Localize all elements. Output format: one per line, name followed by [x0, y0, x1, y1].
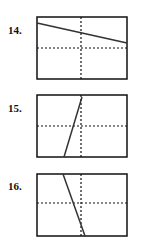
- problem-label-15: 15.: [8, 102, 22, 114]
- graph-16: [36, 173, 128, 237]
- problem-label-16: 16.: [8, 180, 22, 192]
- graph-15: [36, 94, 128, 158]
- graph-14: [36, 16, 128, 80]
- problem-label-14: 14.: [8, 24, 22, 36]
